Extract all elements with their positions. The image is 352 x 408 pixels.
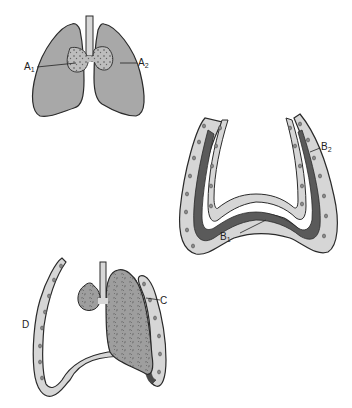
bronchus-cd bbox=[98, 298, 108, 304]
label-c: C bbox=[160, 296, 167, 306]
panel-a-lungs bbox=[33, 16, 145, 116]
label-b2-sub: 2 bbox=[328, 146, 332, 153]
label-c-letter: C bbox=[160, 295, 167, 306]
pleura-inner-band bbox=[208, 118, 306, 221]
label-a2-letter: A bbox=[138, 57, 145, 68]
label-a2-sub: 2 bbox=[145, 62, 149, 69]
label-a1-sub: 1 bbox=[31, 66, 35, 73]
label-b1-sub: 1 bbox=[227, 236, 231, 243]
trachea-cd bbox=[100, 262, 106, 302]
bronchus bbox=[84, 56, 96, 62]
label-b2-letter: B bbox=[321, 141, 328, 152]
hilar-node-cd bbox=[78, 283, 100, 311]
panel-cd-collapsed-lung bbox=[33, 258, 166, 396]
trachea bbox=[86, 16, 93, 56]
label-d-letter: D bbox=[22, 319, 29, 330]
label-a2: A2 bbox=[138, 58, 149, 69]
label-a1-letter: A bbox=[24, 61, 31, 72]
label-a1: A1 bbox=[24, 62, 35, 73]
label-b2: B2 bbox=[321, 142, 332, 153]
diagram-canvas bbox=[0, 0, 352, 408]
label-d: D bbox=[22, 320, 29, 330]
label-b1: B1 bbox=[220, 232, 231, 243]
label-b1-letter: B bbox=[220, 231, 227, 242]
panel-b-pleura bbox=[180, 114, 338, 254]
